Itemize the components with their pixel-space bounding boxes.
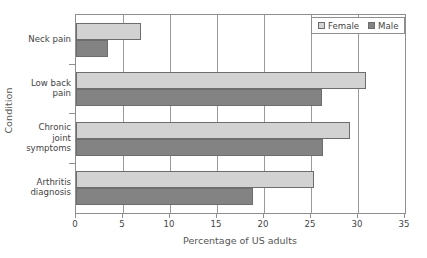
legend-entry-male[interactable]: Male xyxy=(368,21,398,31)
x-axis-title: Percentage of US adults xyxy=(75,235,405,246)
x-tick-label-0: 0 xyxy=(60,219,90,229)
y-tick-label-line: diagnosis xyxy=(14,187,71,197)
x-tick-label-7: 35 xyxy=(389,219,419,229)
x-tick-label-2: 10 xyxy=(154,219,184,229)
legend-entry-female[interactable]: Female xyxy=(318,21,359,31)
legend-swatch-male-icon xyxy=(368,22,375,29)
x-axis-tick xyxy=(169,213,170,218)
y-axis-title-text: Condition xyxy=(3,87,14,133)
x-tick-label-4: 20 xyxy=(248,219,278,229)
legend: FemaleMale xyxy=(311,17,405,34)
x-axis-tick xyxy=(404,213,405,218)
y-axis-tick-labels: Neck painLow backpainChronicjointsymptom… xyxy=(14,14,73,212)
x-axis-tick xyxy=(75,213,76,218)
bar-chart: Condition Neck painLow backpainChronicjo… xyxy=(0,0,427,258)
x-axis-tick xyxy=(122,213,123,218)
y-tick-label-line: Chronic xyxy=(14,122,71,132)
plot-area xyxy=(75,14,406,214)
bar-female-0 xyxy=(76,23,141,40)
y-tick-label-line: joint xyxy=(14,133,71,143)
y-tick-label-line: symptoms xyxy=(14,143,71,153)
x-tick-label-5: 25 xyxy=(295,219,325,229)
x-tick-label-6: 30 xyxy=(342,219,372,229)
y-tick-label-line: Arthritis xyxy=(14,177,71,187)
y-tick-label-1: Low backpain xyxy=(14,78,71,98)
bar-female-3 xyxy=(76,171,314,188)
legend-label: Female xyxy=(328,21,359,31)
y-tick-label-line: Low back xyxy=(14,78,71,88)
y-tick-label-3: Arthritisdiagnosis xyxy=(14,177,71,197)
y-tick-label-0: Neck pain xyxy=(14,34,71,44)
bar-male-3 xyxy=(76,188,253,205)
y-tick-label-line: pain xyxy=(14,88,71,98)
x-axis-tick xyxy=(216,213,217,218)
bar-female-1 xyxy=(76,72,366,89)
bar-male-2 xyxy=(76,139,323,156)
x-axis-tick xyxy=(310,213,311,218)
x-axis-tick xyxy=(263,213,264,218)
bar-male-1 xyxy=(76,89,322,106)
legend-label: Male xyxy=(378,21,398,31)
y-axis-tick xyxy=(69,113,75,114)
bar-female-2 xyxy=(76,122,350,139)
x-axis-tick xyxy=(357,213,358,218)
x-tick-label-3: 15 xyxy=(201,219,231,229)
legend-swatch-female-icon xyxy=(318,22,325,29)
y-axis-tick xyxy=(69,163,75,164)
y-tick-label-line: Neck pain xyxy=(14,34,71,44)
y-tick-label-2: Chronicjointsymptoms xyxy=(14,122,71,153)
y-axis-tick xyxy=(69,64,75,65)
bar-male-0 xyxy=(76,40,108,57)
x-tick-label-1: 5 xyxy=(107,219,137,229)
bars-layer xyxy=(76,15,405,213)
